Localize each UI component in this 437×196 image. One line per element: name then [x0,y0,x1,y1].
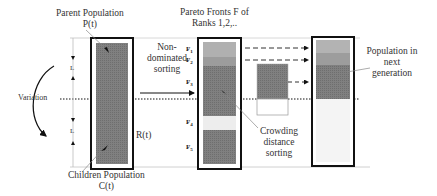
children-population-title: Children Population [68,170,145,181]
children-population-symbol: C(t) [68,181,145,192]
parent-population-title: Parent Population [56,8,124,19]
crowding-distance-box [257,64,288,99]
size-label-bottom: L [70,126,74,137]
next-generation-label: Population in next generation [362,46,422,79]
pareto-fronts-subtitle: Ranks 1,2,.. [180,18,249,29]
front-label-f1: F1 [186,45,193,54]
children-population-label: Children Population C(t) [68,170,145,192]
pareto-fronts-label: Pareto Fronts F of Ranks 1,2,.. [180,7,249,29]
front-label-f5: F5 [186,143,193,152]
crowding-distance-label: Crowding distance sorting [254,126,304,159]
front-label-f2: F2 [186,56,193,65]
combined-population-label: R(t) [136,130,151,141]
parent-population-symbol: P(t) [56,19,124,30]
non-dominated-sorting-label: Non- dominated sorting [142,42,192,75]
variation-label: Variation [18,92,47,103]
front-label-f4: F4 [186,118,193,127]
size-label-top: L [70,63,74,74]
front-label-f3: F3 [186,78,193,87]
pareto-fronts-title: Pareto Fronts F of [180,7,249,18]
parent-population-label: Parent Population P(t) [56,8,124,30]
